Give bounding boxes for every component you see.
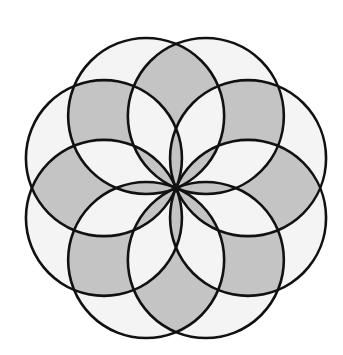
circle-rosette-diagram <box>0 0 343 355</box>
diagram-canvas <box>0 0 343 355</box>
